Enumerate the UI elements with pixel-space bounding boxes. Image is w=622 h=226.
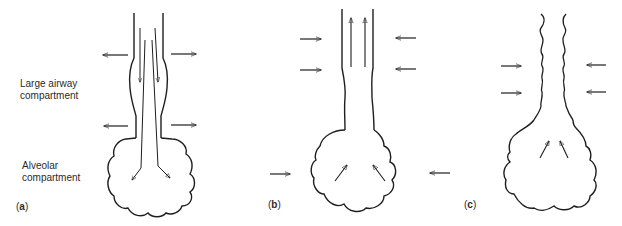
- panel-b-airway-left-wall: [342, 9, 345, 130]
- airway-diagram: [0, 0, 622, 226]
- panel-a: [103, 13, 196, 217]
- panel-c-airway-right-wall: [563, 14, 573, 120]
- panel-b-alveolus: [311, 130, 395, 211]
- panel-b-flow-arrow-3: [335, 165, 347, 181]
- panel-b-flow-arrow-4: [373, 165, 385, 181]
- panel-a-airway-left-wall: [130, 13, 136, 138]
- panel-a-flow-arrow-2: [155, 28, 158, 82]
- panel-c-flow-arrow-2: [560, 141, 568, 158]
- panel-b: [270, 9, 450, 211]
- panel-c: [501, 14, 606, 210]
- panel-a-flow-arrow-4: [152, 40, 170, 178]
- panel-c-flow-arrow-1: [540, 141, 549, 158]
- panel-c-alveolus: [504, 120, 596, 210]
- panel-a-alveolus: [108, 138, 195, 217]
- panel-b-airway-right-wall: [372, 9, 374, 130]
- panel-c-airway-left-wall: [534, 14, 544, 120]
- panel-a-airway-right-wall: [161, 13, 167, 138]
